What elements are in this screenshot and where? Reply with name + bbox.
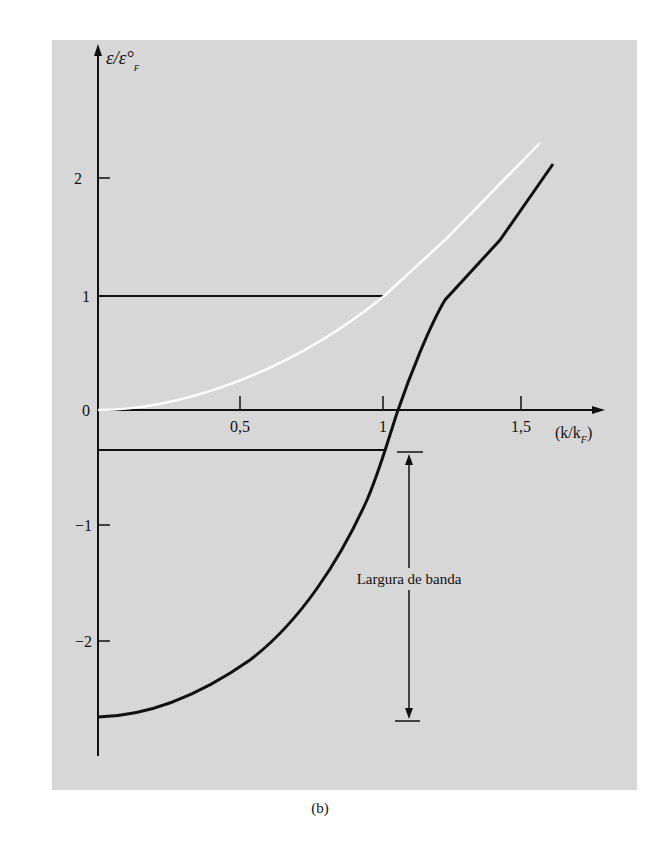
figure-caption: (b) bbox=[0, 800, 640, 817]
y-tick-m1: −1 bbox=[75, 517, 92, 534]
y-axis-arrow-icon bbox=[94, 44, 102, 56]
arrow-down-icon bbox=[405, 708, 413, 719]
band-curve bbox=[98, 164, 553, 717]
x-tick-1: 1 bbox=[379, 418, 387, 435]
y-axis-label: ε/ε°F bbox=[106, 47, 140, 73]
y-tick-1: 1 bbox=[82, 288, 90, 305]
x-tick-05: 0,5 bbox=[230, 418, 250, 435]
free-electron-curve bbox=[98, 143, 540, 410]
y-tick-2: 2 bbox=[74, 170, 82, 187]
y-tick-0: 0 bbox=[82, 402, 90, 419]
band-width-label: Largura de banda bbox=[357, 571, 462, 587]
x-axis-label: (k/kF) bbox=[555, 424, 592, 445]
chart-svg: 2 1 0 −1 −2 0,5 1 1,5 ε/ε°F (k/kF) Largu… bbox=[0, 0, 668, 849]
y-tick-m2: −2 bbox=[75, 633, 92, 650]
x-ticks bbox=[240, 396, 521, 410]
x-axis-arrow-icon bbox=[592, 406, 605, 414]
arrow-up-icon bbox=[405, 454, 413, 465]
x-tick-15: 1,5 bbox=[511, 418, 531, 435]
